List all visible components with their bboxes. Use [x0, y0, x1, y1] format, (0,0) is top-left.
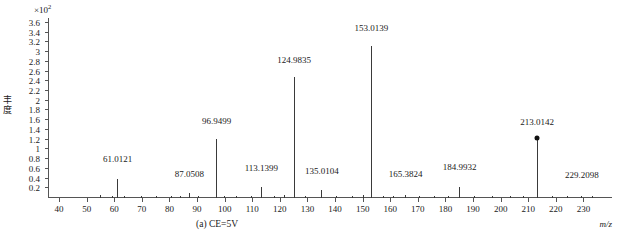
y-axis-tick-label: 3.6: [29, 17, 40, 28]
x-axis-tick-label: 80: [165, 204, 174, 215]
x-axis-tick: [390, 198, 391, 202]
spectrum-peak: [321, 190, 322, 198]
spectrum-peak: [100, 195, 101, 198]
x-axis-tick: [169, 198, 170, 202]
peak-label: 113.1399: [245, 163, 278, 173]
y-axis-tick: [45, 168, 49, 169]
spectrum-peak: [383, 196, 384, 198]
y-axis-tick-label: 1: [36, 144, 41, 155]
y-axis-tick: [45, 187, 49, 188]
y-axis-tick: [45, 158, 49, 159]
y-axis-exponent-prefix: ×10: [34, 5, 48, 15]
spectrum-peak: [552, 196, 553, 198]
x-axis-tick-label: 90: [193, 204, 202, 215]
spectrum-peak: [156, 196, 157, 198]
y-axis-title-char-1: 丰: [1, 95, 13, 105]
x-axis-title: m/z: [599, 219, 612, 230]
y-axis-tick: [45, 139, 49, 140]
x-axis-tick: [583, 198, 584, 202]
x-axis-tick-label: 100: [218, 204, 232, 215]
y-axis-tick: [45, 119, 49, 120]
spectrum-peak: [284, 195, 285, 198]
spectrum-peak: [117, 179, 118, 198]
x-axis-tick: [280, 198, 281, 202]
y-axis-tick-label: 3: [36, 47, 41, 58]
y-axis-tick: [45, 148, 49, 149]
y-axis-tick-label: 2.4: [29, 76, 40, 87]
y-axis-tick-label: 2.6: [29, 66, 40, 77]
y-axis-tick-label: 3.4: [29, 27, 40, 38]
x-axis-tick-label: 220: [549, 204, 563, 215]
x-axis-tick-label: 170: [411, 204, 425, 215]
spectrum-peak: [251, 196, 252, 198]
y-axis-title-char-2: 度: [1, 105, 13, 115]
spectrum-peak: [261, 187, 262, 198]
spectrum-peak: [567, 196, 568, 198]
spectrum-peak: [305, 196, 306, 198]
x-axis-tick: [142, 198, 143, 202]
y-axis-tick-label: 2: [36, 95, 41, 106]
spectrum-peak: [198, 196, 199, 198]
y-axis-tick-label: 1.6: [29, 115, 40, 126]
peak-label: 153.0139: [355, 23, 389, 33]
x-axis-tick: [87, 198, 88, 202]
x-axis-tick: [556, 198, 557, 202]
x-axis-tick-label: 40: [55, 204, 64, 215]
spectrum-peak: [124, 196, 125, 198]
peak-label: 96.9499: [202, 116, 231, 126]
x-axis-tick: [114, 198, 115, 202]
y-axis-tick-label: 0.4: [29, 173, 40, 184]
spectrum-peak: [274, 196, 275, 198]
spectrum-peak: [294, 77, 295, 198]
x-axis-tick: [59, 198, 60, 202]
spectrum-peak: [224, 196, 225, 198]
peak-label: 165.3824: [389, 169, 423, 179]
peak-label: 229.2098: [565, 170, 599, 180]
x-axis-tick-label: 200: [494, 204, 508, 215]
x-axis-tick: [225, 198, 226, 202]
peak-label: 213.0142: [520, 117, 554, 127]
spectrum-peak: [352, 196, 353, 198]
spectrum-peak: [189, 193, 190, 198]
x-axis-tick: [363, 198, 364, 202]
x-axis-tick-label: 150: [356, 204, 370, 215]
spectrum-peak: [393, 196, 394, 198]
spectrum-peak: [419, 196, 420, 198]
spectrum-peak: [336, 196, 337, 198]
spectrum-peak: [537, 140, 538, 198]
x-axis-tick: [473, 198, 474, 202]
y-axis-exponent: ×102: [34, 2, 51, 15]
y-axis-tick: [45, 71, 49, 72]
spectrum-peak: [459, 187, 460, 198]
spectrum-peak: [180, 196, 181, 198]
y-axis-tick: [45, 109, 49, 110]
y-axis-tick-label: 2.8: [29, 56, 40, 67]
x-axis-tick-label: 140: [328, 204, 342, 215]
x-axis-tick-label: 160: [383, 204, 397, 215]
y-axis-tick-label: 1.2: [29, 134, 40, 145]
base-peak-marker-icon: [535, 135, 540, 140]
spectrum-peak: [474, 196, 475, 198]
figure-caption: (a) CE=5V: [196, 219, 238, 230]
spectrum-peak: [371, 46, 372, 198]
x-axis-tick-label: 70: [137, 204, 146, 215]
spectrum-peak: [236, 196, 237, 198]
y-axis-tick: [45, 22, 49, 23]
peak-label: 135.0104: [305, 166, 339, 176]
x-axis-tick-label: 130: [301, 204, 315, 215]
spectrum-peak: [510, 196, 511, 198]
y-axis-tick-label: 0.2: [29, 183, 40, 194]
y-axis-tick: [45, 129, 49, 130]
spectrum-peak: [592, 196, 593, 198]
y-axis-tick: [45, 80, 49, 81]
x-axis-tick-label: 230: [577, 204, 591, 215]
x-axis-tick: [307, 198, 308, 202]
y-axis-tick: [45, 41, 49, 42]
spectrum-peak: [363, 195, 364, 198]
y-axis-line: [48, 18, 49, 198]
spectrum-peak: [112, 196, 113, 198]
x-axis-tick-label: 190: [466, 204, 480, 215]
peak-label: 124.9835: [277, 55, 311, 65]
spectrum-peak: [581, 196, 582, 198]
y-axis-tick: [45, 32, 49, 33]
